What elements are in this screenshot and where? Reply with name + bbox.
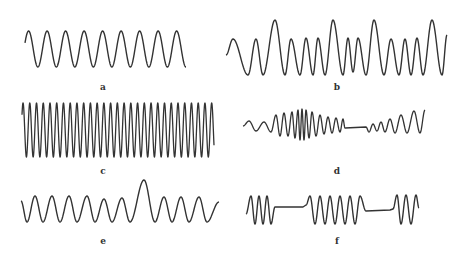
- waveform-b: [226, 20, 447, 75]
- waveform-c: [22, 103, 214, 157]
- panel-label-c: c: [100, 167, 105, 176]
- waveform-e: [21, 180, 219, 222]
- waveform-a: [25, 31, 186, 67]
- panel-label-f: f: [335, 237, 339, 246]
- panel-label-d: d: [334, 167, 340, 176]
- panel-label-e: e: [100, 237, 106, 246]
- waveform-f: [246, 195, 419, 224]
- figure-waveforms: a b c d e f: [0, 0, 463, 262]
- panel-label-a: a: [100, 83, 106, 92]
- waveform-d: [243, 109, 425, 140]
- panel-label-b: b: [334, 83, 340, 92]
- waveform-canvas: [0, 0, 463, 262]
